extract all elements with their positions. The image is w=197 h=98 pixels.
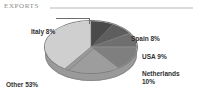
leader-line-italy-horizontal xyxy=(56,18,90,19)
pie-graphic xyxy=(45,21,137,83)
pie-slices-svg xyxy=(45,21,137,73)
header-divider xyxy=(50,7,193,9)
exports-pie-chart-figure: EXPORTS xyxy=(0,0,197,98)
pie-top-face xyxy=(45,21,137,73)
pie-label-other: Other 53% xyxy=(6,81,38,89)
chart-plot-area: Italy 8% Other 53% Spain 8% USA 9% Nethe… xyxy=(0,13,197,98)
leader-line-italy-vertical xyxy=(89,18,90,24)
page-title: EXPORTS xyxy=(4,2,39,10)
pie-label-italy: Italy 8% xyxy=(31,28,55,36)
pie-label-netherlands: Netherlands 10% xyxy=(142,70,184,86)
pie-label-usa: USA 9% xyxy=(142,53,167,61)
pie-label-spain: Spain 8% xyxy=(131,35,160,43)
chart-header: EXPORTS xyxy=(0,0,197,14)
pie-label-germany: Germany 12% xyxy=(123,97,166,98)
